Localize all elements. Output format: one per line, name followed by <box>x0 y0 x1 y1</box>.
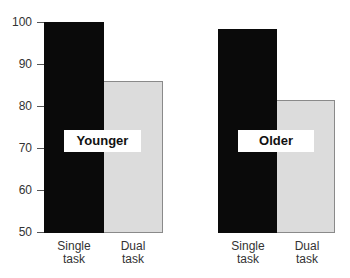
x-label-line: task <box>108 253 158 266</box>
y-tick-90: 90 <box>0 58 32 70</box>
bar-older-dual-task <box>277 100 335 233</box>
y-tick-80: 80 <box>0 100 32 112</box>
x-label-line: task <box>282 253 332 266</box>
group-label-younger: Younger <box>64 130 141 152</box>
y-tick-line <box>37 190 44 191</box>
bar-younger-single-task <box>44 22 104 233</box>
x-label-line: task <box>223 253 273 266</box>
y-tick-line <box>37 22 44 23</box>
y-tick-line <box>37 106 44 107</box>
bar-younger-dual-task <box>104 81 163 233</box>
y-tick-line <box>37 148 44 149</box>
y-tick-100: 100 <box>0 16 32 28</box>
x-label-dual-task: Dual task <box>108 240 158 266</box>
y-tick-70: 70 <box>0 142 32 154</box>
x-label-line: task <box>49 253 99 266</box>
y-tick-50: 50 <box>0 226 32 238</box>
x-label-single-task: Single task <box>49 240 99 266</box>
y-tick-line <box>37 64 44 65</box>
group-label-older: Older <box>238 130 314 152</box>
x-label-single-task: Single task <box>223 240 273 266</box>
y-tick-line <box>37 232 44 233</box>
y-tick-60: 60 <box>0 184 32 196</box>
x-label-dual-task: Dual task <box>282 240 332 266</box>
